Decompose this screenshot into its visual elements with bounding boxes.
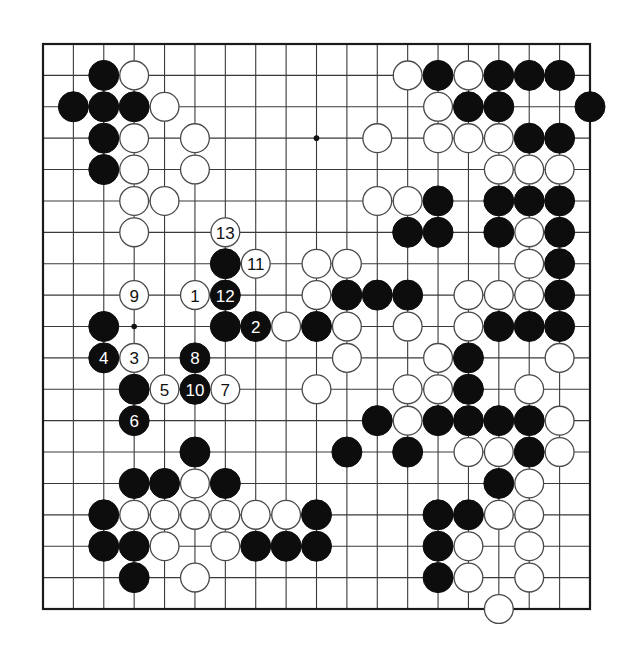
go-board-diagram: 12345678910111213 (0, 0, 635, 655)
black-stone (545, 186, 575, 216)
white-stone (120, 218, 149, 247)
white-stone (545, 343, 574, 372)
white-stone (484, 155, 513, 184)
black-stone (514, 437, 544, 467)
black-stone (210, 312, 240, 342)
white-stone (363, 124, 392, 153)
move-number-label: 7 (221, 381, 230, 400)
black-stone (453, 343, 483, 373)
black-stone (423, 563, 453, 593)
white-stone (484, 281, 513, 310)
move-number-label: 6 (129, 412, 138, 431)
white-stone (181, 469, 210, 498)
black-stone (119, 531, 149, 561)
move-number-label: 8 (190, 349, 199, 368)
black-stone (58, 92, 88, 122)
move-number-label: 2 (251, 318, 260, 337)
numbered-move-6: 6 (119, 406, 149, 436)
black-stone (150, 468, 180, 498)
black-stone (89, 155, 119, 185)
white-stone (515, 500, 544, 529)
black-stone (514, 312, 544, 342)
black-stone (393, 217, 423, 247)
white-stone (211, 532, 240, 561)
white-stone (393, 61, 422, 90)
go-board: 12345678910111213 (0, 0, 635, 655)
white-stone (484, 595, 513, 624)
move-number-label: 10 (185, 381, 204, 400)
black-stone (453, 406, 483, 436)
move-number-label: 9 (129, 287, 138, 306)
black-stone (453, 374, 483, 404)
move-number-label: 11 (247, 255, 265, 274)
star-point (131, 324, 137, 330)
black-stone (545, 280, 575, 310)
white-stone (454, 124, 483, 153)
numbered-move-12: 12 (210, 280, 240, 310)
black-stone (484, 468, 514, 498)
white-stone (393, 375, 422, 404)
numbered-move-10: 10 (180, 374, 210, 404)
white-stone (302, 375, 331, 404)
black-stone (484, 406, 514, 436)
black-stone (423, 186, 453, 216)
numbered-move-1: 1 (181, 281, 210, 310)
white-stone (150, 187, 179, 216)
black-stone (119, 563, 149, 593)
white-stone (302, 281, 331, 310)
stones-layer (58, 60, 605, 623)
numbered-move-2: 2 (241, 312, 271, 342)
black-stone (514, 60, 544, 90)
numbered-move-3: 3 (120, 343, 149, 372)
black-stone (302, 531, 332, 561)
black-stone (484, 60, 514, 90)
black-stone (210, 468, 240, 498)
black-stone (89, 312, 119, 342)
move-number-label: 5 (160, 381, 169, 400)
black-stone (180, 437, 210, 467)
star-point (314, 135, 320, 141)
black-stone (332, 437, 362, 467)
white-stone (515, 375, 544, 404)
numbered-move-13: 13 (211, 218, 240, 247)
white-stone (181, 563, 210, 592)
white-stone (120, 61, 149, 90)
black-stone (514, 123, 544, 153)
white-stone (272, 500, 301, 529)
black-stone (484, 92, 514, 122)
black-stone (545, 312, 575, 342)
white-stone (515, 469, 544, 498)
white-stone (332, 343, 361, 372)
move-number-label: 12 (216, 287, 235, 306)
black-stone (332, 280, 362, 310)
white-stone (363, 187, 392, 216)
white-stone (484, 438, 513, 467)
white-stone (545, 438, 574, 467)
black-stone (423, 60, 453, 90)
white-stone (515, 155, 544, 184)
white-stone (302, 249, 331, 278)
white-stone (424, 124, 453, 153)
white-stone (515, 563, 544, 592)
black-stone (89, 531, 119, 561)
white-stone (181, 155, 210, 184)
numbered-move-5: 5 (150, 375, 179, 404)
white-stone (454, 281, 483, 310)
black-stone (423, 500, 453, 530)
white-stone (454, 61, 483, 90)
numbered-move-11: 11 (241, 249, 270, 278)
white-stone (545, 406, 574, 435)
white-stone (545, 155, 574, 184)
white-stone (181, 124, 210, 153)
black-stone (514, 186, 544, 216)
black-stone (484, 186, 514, 216)
black-stone (393, 437, 423, 467)
white-stone (150, 92, 179, 121)
white-stone (241, 500, 270, 529)
white-stone (424, 375, 453, 404)
black-stone (119, 468, 149, 498)
numbered-move-8: 8 (180, 343, 210, 373)
numbered-move-7: 7 (211, 375, 240, 404)
black-stone (362, 280, 392, 310)
black-stone (362, 406, 392, 436)
